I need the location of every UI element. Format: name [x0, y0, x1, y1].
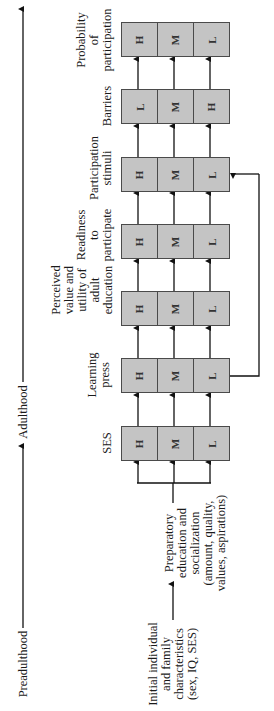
cell-l: L	[194, 427, 229, 460]
stage-box-barriers: L M H	[121, 89, 230, 124]
cell-l: L	[194, 23, 229, 56]
stage-box-probability: H M L	[121, 22, 230, 57]
cell-l: L	[194, 359, 229, 392]
timeline-label-preadulthood: Preadulthood	[17, 631, 30, 698]
cell-m: M	[158, 23, 194, 56]
cell-h: H	[122, 225, 158, 258]
cell-h: H	[122, 158, 158, 191]
cell-h: H	[122, 23, 158, 56]
stage-label-learning-press: Learningpress	[86, 352, 112, 397]
cell-l: L	[122, 90, 158, 123]
stage-label-perceived-value: Perceivedvalue andutility ofadulteducati…	[50, 265, 115, 314]
cell-h: H	[122, 359, 158, 392]
cell-m: M	[158, 292, 194, 325]
stage-box-perceived-value: H M L	[121, 291, 230, 326]
stage-label-participation-stimuli: Participationstimuli	[88, 136, 114, 200]
stage-box-participation-stimuli: H M L	[121, 157, 230, 192]
feedback-arrow	[230, 174, 259, 376]
stage-label-readiness: Readinesstoparticipate	[75, 209, 114, 262]
cell-h: H	[122, 292, 158, 325]
stage-box-ses: H M L	[121, 426, 230, 461]
cell-l: L	[194, 225, 229, 258]
preparatory-education-label: Preparatoryeducation andsocialization(am…	[163, 495, 228, 592]
cell-m: M	[158, 225, 194, 258]
stage-label-probability: Probabilityofparticipation	[75, 8, 114, 71]
stage-box-readiness: H M L	[121, 224, 230, 259]
timeline-label-adulthood: Adulthood	[17, 385, 30, 438]
cell-l: L	[194, 292, 229, 325]
cell-h: H	[194, 90, 229, 123]
cell-m: M	[158, 427, 194, 460]
stage-label-barriers: Barriers	[101, 86, 114, 126]
cell-m: M	[158, 158, 194, 191]
cell-l: L	[194, 158, 229, 191]
initial-characteristics-label: Initial individualand familycharacterist…	[147, 622, 199, 706]
cell-h: H	[122, 427, 158, 460]
cell-m: M	[158, 359, 194, 392]
cell-m: M	[158, 90, 194, 123]
stage-label-ses: SES	[101, 432, 114, 454]
stage-box-learning-press: H M L	[121, 358, 230, 393]
